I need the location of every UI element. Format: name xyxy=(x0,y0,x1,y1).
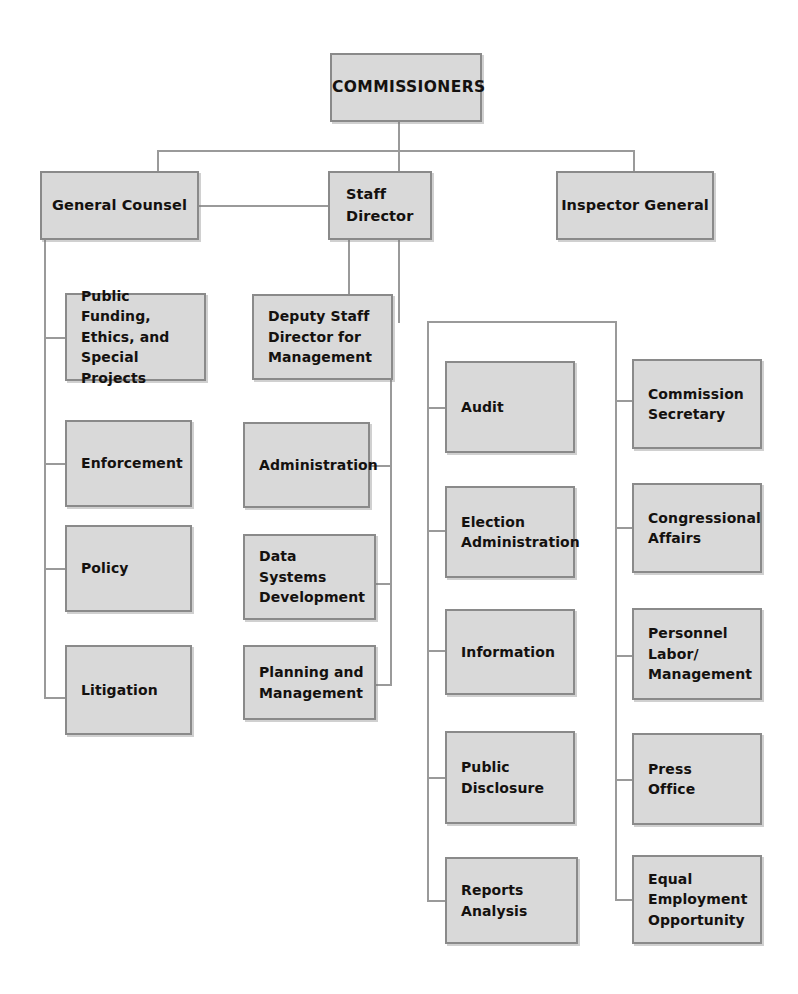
node-commissioners-label: COMMISSIONERS xyxy=(332,76,480,99)
spine-general-counsel xyxy=(44,240,46,699)
node-data-systems-development-label: Data Systems Development xyxy=(259,546,374,607)
node-litigation-label: Litigation xyxy=(81,680,190,700)
node-personnel-labor-management-label: Personnel Labor/ Management xyxy=(648,623,760,684)
stub-audit xyxy=(427,407,445,409)
node-audit[interactable]: Audit xyxy=(445,361,575,453)
node-data-systems-development[interactable]: Data Systems Development xyxy=(243,534,376,620)
stub-public-funding xyxy=(44,337,65,339)
node-information-label: Information xyxy=(461,642,573,662)
stub-congressional-affairs xyxy=(615,527,632,529)
spine-deputy-staff-director xyxy=(390,380,392,686)
stub-information xyxy=(427,650,445,652)
node-personnel-labor-management[interactable]: Personnel Labor/ Management xyxy=(632,608,762,700)
node-administration[interactable]: Administration xyxy=(243,422,370,508)
node-commission-secretary-label: Commission Secretary xyxy=(648,384,760,425)
node-public-disclosure[interactable]: Public Disclosure xyxy=(445,731,575,824)
node-public-funding-ethics-special-projects[interactable]: Public Funding, Ethics, and Special Proj… xyxy=(65,293,206,381)
node-equal-employment-opportunity-label: Equal Employment Opportunity xyxy=(648,869,760,930)
spine-operations-right xyxy=(615,321,617,899)
node-congressional-affairs-label: Congressional Affairs xyxy=(648,508,760,549)
node-enforcement[interactable]: Enforcement xyxy=(65,420,192,507)
connector-root-down xyxy=(398,122,400,151)
connector-to-staff-director xyxy=(398,150,400,172)
node-audit-label: Audit xyxy=(461,397,573,417)
node-general-counsel[interactable]: General Counsel xyxy=(40,171,199,240)
stub-commission-secretary xyxy=(615,400,632,402)
node-deputy-staff-director[interactable]: Deputy Staff Director for Management xyxy=(252,294,393,380)
connector-to-inspector-general xyxy=(633,150,635,172)
node-election-administration-label: Election Administration xyxy=(461,512,573,553)
node-administration-label: Administration xyxy=(259,455,368,475)
node-public-disclosure-label: Public Disclosure xyxy=(461,757,573,798)
connector-tier2-bar xyxy=(157,150,635,152)
stub-public-disclosure xyxy=(427,777,445,779)
stub-personnel-labor-management xyxy=(615,655,632,657)
connector-director-to-deputy xyxy=(348,240,350,294)
node-inspector-general-label: Inspector General xyxy=(558,195,712,216)
stub-election-administration xyxy=(427,530,445,532)
node-press-office-label: Press Office xyxy=(648,759,760,800)
stub-enforcement xyxy=(44,463,65,465)
connector-to-general-counsel xyxy=(157,150,159,172)
node-press-office[interactable]: Press Office xyxy=(632,733,762,825)
node-inspector-general[interactable]: Inspector General xyxy=(556,171,714,240)
stub-press-office xyxy=(615,779,632,781)
node-election-administration[interactable]: Election Administration xyxy=(445,486,575,578)
node-information[interactable]: Information xyxy=(445,609,575,695)
node-enforcement-label: Enforcement xyxy=(81,453,190,473)
connector-operations-bar xyxy=(427,321,617,323)
node-planning-and-management[interactable]: Planning and Management xyxy=(243,645,376,720)
node-staff-director-label: Staff Director xyxy=(346,184,430,226)
node-commissioners[interactable]: COMMISSIONERS xyxy=(330,53,482,122)
stub-policy xyxy=(44,568,65,570)
stub-litigation xyxy=(44,697,65,699)
stub-equal-employment-opportunity xyxy=(615,899,632,901)
node-equal-employment-opportunity[interactable]: Equal Employment Opportunity xyxy=(632,855,762,944)
node-policy-label: Policy xyxy=(81,558,190,578)
node-policy[interactable]: Policy xyxy=(65,525,192,612)
node-deputy-staff-director-label: Deputy Staff Director for Management xyxy=(268,306,391,367)
connector-director-to-operations xyxy=(398,240,400,323)
node-reports-analysis[interactable]: Reports Analysis xyxy=(445,857,578,944)
node-congressional-affairs[interactable]: Congressional Affairs xyxy=(632,483,762,573)
node-staff-director[interactable]: Staff Director xyxy=(328,171,432,240)
node-reports-analysis-label: Reports Analysis xyxy=(461,880,576,921)
node-public-funding-label: Public Funding, Ethics, and Special Proj… xyxy=(81,286,204,388)
node-general-counsel-label: General Counsel xyxy=(42,195,197,216)
connector-counsel-to-director xyxy=(199,205,329,207)
stub-reports-analysis xyxy=(427,900,445,902)
org-chart-canvas: COMMISSIONERS General Counsel Staff Dire… xyxy=(0,0,798,994)
node-commission-secretary[interactable]: Commission Secretary xyxy=(632,359,762,449)
node-litigation[interactable]: Litigation xyxy=(65,645,192,735)
node-planning-and-management-label: Planning and Management xyxy=(259,662,374,703)
